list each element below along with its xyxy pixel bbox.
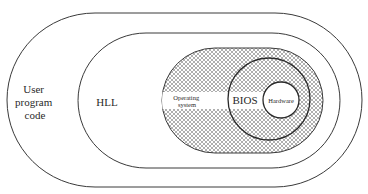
layers-diagram: User program code HLL Operating system B… xyxy=(0,0,368,194)
label-bios: BIOS xyxy=(232,94,257,106)
label-hll: HLL xyxy=(96,96,118,108)
label-hardware: Hardware xyxy=(268,97,294,104)
label-user-program-code: User program code xyxy=(15,83,55,121)
